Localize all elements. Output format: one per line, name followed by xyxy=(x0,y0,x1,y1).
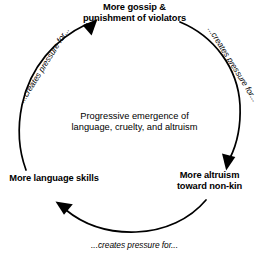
node-language: More language skills xyxy=(2,173,106,184)
arc-bottom xyxy=(66,200,206,232)
node-gossip: More gossip & punishment of violators xyxy=(0,2,269,24)
node-gossip-line1: More gossip & xyxy=(0,2,269,13)
node-altruism-line1: More altruism xyxy=(150,170,269,181)
cycle-diagram: More gossip & punishment of violators Mo… xyxy=(0,0,269,261)
center-text-line1: Progressive emergence of xyxy=(34,111,235,122)
node-altruism-line2: toward non-kin xyxy=(150,181,269,192)
arrowhead-right xyxy=(222,154,235,171)
center-text-line2: language, cruelty, and altruism xyxy=(34,122,235,133)
arrow-gossip-to-altruism xyxy=(180,22,240,171)
node-gossip-line2: punishment of violators xyxy=(0,13,269,24)
arc-right xyxy=(180,22,240,158)
edge-label-altruism-to-language: ...creates pressure for... xyxy=(0,240,269,250)
center-text: Progressive emergence of language, cruel… xyxy=(34,111,235,134)
node-language-line1: More language skills xyxy=(2,173,106,184)
arrow-altruism-to-language xyxy=(56,200,207,232)
node-altruism: More altruism toward non-kin xyxy=(150,170,269,192)
